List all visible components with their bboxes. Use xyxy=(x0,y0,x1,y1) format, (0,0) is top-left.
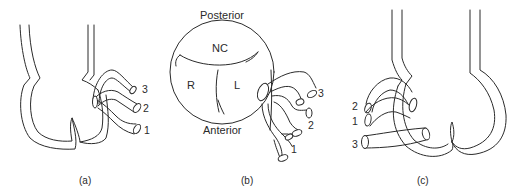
panel-b-catheters xyxy=(255,70,318,163)
right-cusp-label: R xyxy=(187,80,195,91)
panel-c-label-3: 3 xyxy=(352,139,358,150)
panel-a-caption: (a) xyxy=(79,176,91,186)
posterior-label: Posterior xyxy=(200,10,244,21)
panel-b-label-2: 2 xyxy=(308,120,314,131)
panel-a-label-1: 1 xyxy=(144,125,150,136)
panel-a-catheters xyxy=(93,70,143,135)
panel-c-caption: (c) xyxy=(417,176,429,186)
diagram-canvas xyxy=(0,0,514,191)
panel-a-label-3: 3 xyxy=(142,84,148,95)
panel-c-label-1: 1 xyxy=(352,116,358,127)
panel-b-label-3: 3 xyxy=(318,88,324,99)
panel-c-label-2: 2 xyxy=(352,101,358,112)
noncoronary-cusp-label: NC xyxy=(212,43,228,54)
panel-a-label-2: 2 xyxy=(143,103,149,114)
panel-c-catheters xyxy=(362,78,431,149)
panel-b-aortic-root xyxy=(170,20,274,124)
left-cusp-label: L xyxy=(234,80,240,91)
panel-c-aorta xyxy=(392,10,506,156)
panel-b-label-1: 1 xyxy=(291,144,297,155)
anterior-label: Anterior xyxy=(203,125,242,136)
panel-b-caption: (b) xyxy=(241,176,253,186)
